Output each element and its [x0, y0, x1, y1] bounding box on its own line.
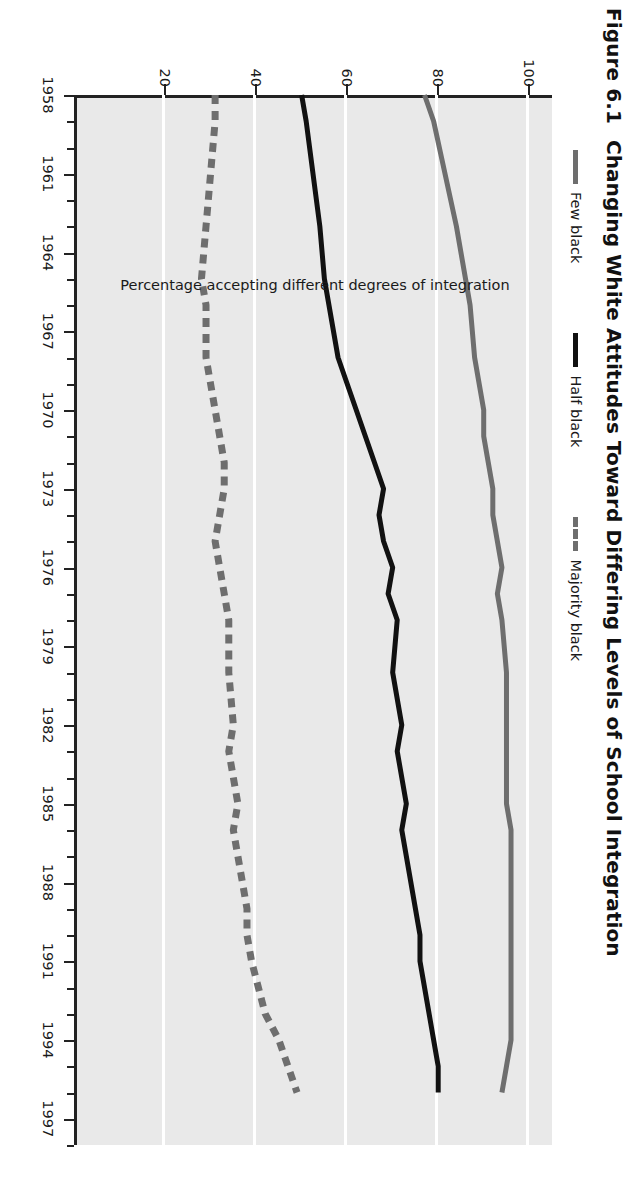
legend-item: Majority black	[568, 517, 584, 661]
x-tick-mark-minor	[67, 358, 74, 360]
legend-label: Few black	[568, 192, 584, 263]
y-tick-label: 40	[248, 49, 264, 87]
legend-label: Half black	[568, 375, 584, 447]
series-line	[302, 95, 439, 1093]
legend-item: Half black	[568, 333, 584, 447]
x-tick-label: 1961	[40, 155, 56, 192]
x-tick-mark-major	[64, 410, 74, 412]
x-tick-mark-major	[64, 174, 74, 176]
line-solid-gray-icon	[574, 150, 579, 184]
x-tick-mark-minor	[67, 935, 74, 937]
x-tick-label: 1970	[40, 392, 56, 429]
chart-legend: Few blackHalf blackMajority black	[568, 150, 584, 661]
x-tick-mark-minor	[67, 226, 74, 228]
x-tick-mark-minor	[67, 121, 74, 123]
x-tick-label: 1991	[40, 943, 56, 980]
x-tick-mark-minor	[67, 988, 74, 990]
figure-title-text: Changing White Attitudes Toward Differin…	[602, 140, 626, 957]
x-tick-mark-major	[64, 804, 74, 806]
x-tick-mark-minor	[67, 541, 74, 543]
x-tick-mark-minor	[67, 1145, 74, 1147]
x-tick-mark-minor	[67, 1014, 74, 1016]
x-tick-mark-minor	[67, 1093, 74, 1095]
series-line	[425, 95, 512, 1093]
x-tick-mark-minor	[67, 148, 74, 150]
figure-title: Figure 6.1Changing White Attitudes Towar…	[602, 8, 626, 1108]
x-tick-label: 1985	[40, 785, 56, 822]
x-tick-label: 1973	[40, 470, 56, 507]
x-tick-mark-major	[64, 568, 74, 570]
x-tick-mark-minor	[67, 436, 74, 438]
x-tick-mark-minor	[67, 673, 74, 675]
x-tick-mark-minor	[67, 515, 74, 517]
x-tick-mark-minor	[67, 463, 74, 465]
x-tick-label: 1958	[40, 77, 56, 114]
x-tick-mark-minor	[67, 594, 74, 596]
x-tick-mark-major	[64, 489, 74, 491]
x-tick-mark-minor	[67, 1066, 74, 1068]
x-tick-mark-major	[64, 95, 74, 97]
series-lines	[74, 95, 552, 1145]
x-tick-mark-minor	[67, 384, 74, 386]
x-tick-mark-major	[64, 253, 74, 255]
x-tick-label: 1967	[40, 313, 56, 350]
x-tick-mark-minor	[67, 200, 74, 202]
x-tick-mark-minor	[67, 856, 74, 858]
x-tick-label: 1994	[40, 1022, 56, 1059]
y-tick-label: 80	[430, 49, 446, 87]
x-tick-label: 1997	[40, 1100, 56, 1137]
figure-number: Figure 6.1	[602, 8, 626, 124]
x-tick-mark-major	[64, 646, 74, 648]
x-tick-mark-minor	[67, 830, 74, 832]
x-tick-mark-minor	[67, 751, 74, 753]
x-tick-mark-minor	[67, 778, 74, 780]
x-tick-mark-minor	[67, 620, 74, 622]
series-line	[201, 95, 297, 1093]
x-tick-mark-major	[64, 725, 74, 727]
line-dashed-gray-icon	[574, 517, 579, 551]
x-tick-mark-major	[64, 1119, 74, 1121]
x-tick-label: 1964	[40, 234, 56, 271]
x-tick-label: 1976	[40, 549, 56, 586]
legend-label: Majority black	[568, 559, 584, 661]
y-tick-label: 100	[521, 49, 537, 87]
x-tick-mark-major	[64, 1040, 74, 1042]
rotated-figure-wrapper: Figure 6.1Changing White Attitudes Towar…	[0, 0, 632, 1194]
x-tick-label: 1982	[40, 707, 56, 744]
y-axis-label: Percentage accepting different degrees o…	[35, 277, 595, 293]
x-tick-mark-minor	[67, 305, 74, 307]
line-solid-black-icon	[574, 333, 579, 367]
plot-area: 20406080100 1958196119641967197019731976…	[74, 95, 552, 1145]
x-tick-mark-major	[64, 961, 74, 963]
x-tick-label: 1988	[40, 864, 56, 901]
legend-item: Few black	[568, 150, 584, 263]
x-tick-mark-major	[64, 883, 74, 885]
y-tick-label: 20	[157, 49, 173, 87]
x-tick-mark-minor	[67, 909, 74, 911]
x-tick-label: 1979	[40, 628, 56, 665]
y-tick-label: 60	[339, 49, 355, 87]
x-tick-mark-minor	[67, 699, 74, 701]
x-tick-mark-major	[64, 331, 74, 333]
figure-container: Figure 6.1Changing White Attitudes Towar…	[0, 0, 632, 1194]
